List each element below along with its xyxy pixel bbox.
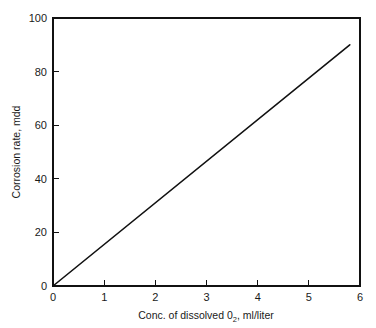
x-axis-title-after: , ml/liter	[237, 309, 274, 321]
y-axis-tick-labels: 0 20 40 60 80 100	[29, 12, 47, 292]
y-axis-title: Corrosion rate, mdd	[10, 105, 22, 198]
y-tick-label-80: 80	[35, 66, 47, 78]
y-tick-label-20: 20	[35, 226, 47, 238]
plot-area-background	[53, 18, 360, 286]
x-tick-label-5: 5	[306, 291, 312, 303]
svg-text:Conc. of dissolved 02, ml/lite: Conc. of dissolved 02, ml/liter	[138, 309, 274, 324]
x-tick-label-0: 0	[50, 291, 56, 303]
x-tick-label-4: 4	[255, 291, 261, 303]
x-tick-label-1: 1	[101, 291, 107, 303]
chart-canvas: 0 20 40 60 80 100 0 1 2 3 4 5 6 Conc. of…	[0, 0, 376, 328]
x-axis-title-before: Conc. of dissolved 0	[138, 309, 233, 321]
x-tick-label-6: 6	[357, 291, 363, 303]
x-tick-label-3: 3	[203, 291, 209, 303]
x-tick-label-2: 2	[152, 291, 158, 303]
y-tick-label-60: 60	[35, 119, 47, 131]
y-tick-label-0: 0	[41, 280, 47, 292]
chart-figure: 0 20 40 60 80 100 0 1 2 3 4 5 6 Conc. of…	[0, 0, 376, 328]
y-tick-label-100: 100	[29, 12, 47, 24]
y-tick-label-40: 40	[35, 173, 47, 185]
x-axis-tick-labels: 0 1 2 3 4 5 6	[50, 291, 363, 303]
x-axis-title: Conc. of dissolved 02, ml/liter	[138, 309, 274, 324]
